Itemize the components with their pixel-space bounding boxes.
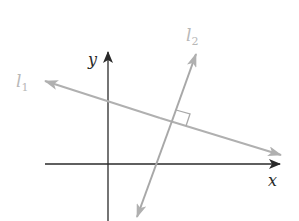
coordinate-diagram: y x l1 l2 bbox=[0, 0, 299, 221]
line-l2-lower bbox=[137, 121, 172, 217]
x-axis-label: x bbox=[268, 171, 277, 190]
line-l2 bbox=[172, 54, 196, 121]
l1-label: l1 bbox=[16, 71, 28, 94]
l2-label: l2 bbox=[186, 25, 198, 48]
line-l1 bbox=[45, 81, 160, 118]
l2-label-subscript: 2 bbox=[191, 35, 198, 48]
l1-label-subscript: 1 bbox=[21, 81, 28, 94]
y-axis-label: y bbox=[87, 50, 98, 69]
line-l1-right bbox=[160, 118, 281, 155]
